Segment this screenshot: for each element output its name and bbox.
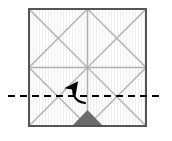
origami-diagram: Origami crease pattern fold step bbox=[0, 0, 172, 141]
diagram-canvas bbox=[0, 0, 172, 141]
